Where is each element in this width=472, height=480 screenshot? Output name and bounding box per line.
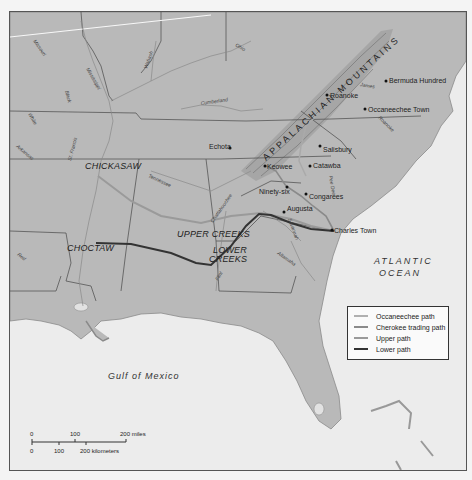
town-charles-town: Charles Town xyxy=(334,227,376,234)
scale-miles-200: 200 miles xyxy=(120,431,146,437)
atlantic-ocean-label-1: ATLANTIC xyxy=(373,256,433,266)
map-canvas: Bermuda Hundred Roanoke Occaneechee Town… xyxy=(10,12,466,470)
tribe-lower-creeks-2: CREEKS xyxy=(209,254,247,264)
legend-item-lower: Lower path xyxy=(354,344,411,354)
tribe-choctaw: CHOCTAW xyxy=(67,243,115,253)
scale-bar: 0 100 200 miles 0 100 200 kilometers xyxy=(30,431,140,461)
tribe-chickasaw: CHICKASAW xyxy=(85,161,142,171)
scale-km-200: 200 kilometers xyxy=(80,448,119,454)
legend-item-cherokee: Cherokee trading path xyxy=(354,322,445,332)
gulf-of-mexico-label: Gulf of Mexico xyxy=(108,371,180,381)
legend-item-upper: Upper path xyxy=(354,333,411,343)
atlantic-ocean-label-2: OCEAN xyxy=(379,268,421,278)
legend-swatch xyxy=(354,326,368,328)
town-keowee: Keowee xyxy=(267,163,292,170)
legend-swatch xyxy=(354,348,368,350)
town-catawba: Catawba xyxy=(313,162,341,169)
lake-okeechobee xyxy=(314,403,324,415)
map-legend: Occaneechee path Cherokee trading path U… xyxy=(347,306,449,360)
land-mass xyxy=(10,12,466,429)
town-ninety-six: Ninety-six xyxy=(259,188,290,196)
legend-swatch xyxy=(354,315,368,317)
scale-miles-100: 100 xyxy=(70,431,80,437)
legend-swatch xyxy=(354,337,368,339)
bahamas xyxy=(371,401,433,470)
town-echota: Echota xyxy=(209,143,231,150)
scale-km-0: 0 xyxy=(30,448,33,454)
legend-item-occaneechee: Occaneechee path xyxy=(354,311,435,321)
town-bermuda-hundred: Bermuda Hundred xyxy=(389,77,446,84)
scale-miles-0: 0 xyxy=(30,431,33,437)
scale-km-100: 100 xyxy=(54,448,64,454)
town-congarees: Congarees xyxy=(309,193,344,201)
town-occaneechee: Occaneechee Town xyxy=(368,106,429,113)
town-salisbury: Salisbury xyxy=(323,146,352,154)
map-frame: Bermuda Hundred Roanoke Occaneechee Town… xyxy=(9,11,467,471)
lake-pontchartrain xyxy=(74,303,88,311)
town-augusta: Augusta xyxy=(287,205,313,213)
tribe-upper-creeks: UPPER CREEKS xyxy=(177,229,250,239)
